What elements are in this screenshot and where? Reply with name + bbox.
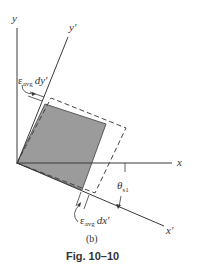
strain-dx-label: εavgdx' bbox=[80, 214, 110, 228]
theta-label: θs1 bbox=[117, 179, 129, 194]
x-prime-axis-label: x' bbox=[165, 224, 174, 236]
strain-rotation-diagram: y y' x x' εavgdy' εavgdx' θs1 (b) Fig. 1… bbox=[0, 0, 200, 275]
figure-sublabel: (b) bbox=[86, 233, 98, 245]
strain-dy-annotation: εavgdy' bbox=[18, 74, 48, 101]
theta-subscript: s1 bbox=[122, 186, 129, 194]
angle-theta-annotation: θs1 bbox=[116, 163, 129, 209]
x-axis-label: x bbox=[176, 156, 182, 168]
strain-dy-label: εavgdy' bbox=[18, 74, 48, 88]
dy-differential: dy' bbox=[35, 74, 48, 86]
avg-subscript: avg bbox=[23, 80, 34, 88]
strain-dx-annotation: εavgdx' bbox=[74, 192, 110, 228]
dy-extension-tick-1 bbox=[28, 96, 42, 101]
avg-subscript: avg bbox=[85, 220, 96, 228]
theta-arrowhead bbox=[116, 204, 121, 209]
figure-caption: Fig. 10–10 bbox=[66, 250, 119, 262]
x-prime-axis bbox=[17, 163, 164, 226]
undeformed-element-square bbox=[17, 104, 106, 190]
dy-arrowhead bbox=[32, 92, 36, 96]
y-axis-label: y bbox=[11, 12, 17, 24]
y-prime-axis-label: y' bbox=[68, 21, 77, 33]
dx-differential: dx' bbox=[97, 214, 110, 226]
dx-extension-tick-2 bbox=[84, 195, 89, 209]
